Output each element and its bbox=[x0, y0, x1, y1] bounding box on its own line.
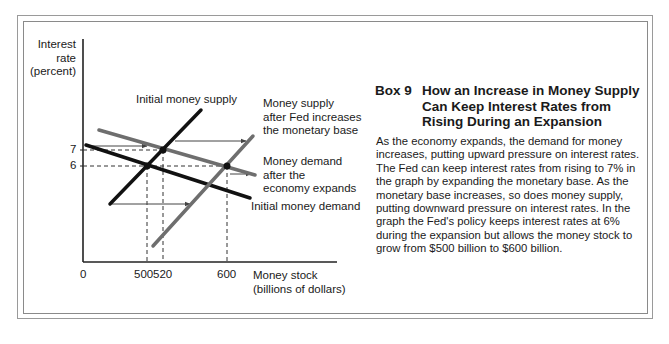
box-title: How an Increase in Money Supply Can Keep… bbox=[422, 83, 652, 130]
box-number: Box 9 bbox=[375, 83, 412, 99]
label-new-supply: Money supply after Fed increases the mon… bbox=[263, 97, 361, 138]
label-initial-demand: Initial money demand bbox=[251, 200, 360, 214]
equilibrium-dot-final bbox=[224, 163, 231, 170]
new-money-supply-curve bbox=[153, 136, 253, 246]
box-body-text: As the economy expands, the demand for m… bbox=[376, 135, 646, 256]
equilibrium-dot-initial bbox=[144, 163, 151, 170]
initial-money-demand-curve bbox=[86, 145, 250, 198]
x-tick-520: 520 bbox=[153, 268, 172, 282]
x-tick-500: 500 bbox=[134, 268, 153, 282]
y-tick-7: 7 bbox=[70, 143, 76, 157]
x-tick-0: 0 bbox=[80, 268, 86, 282]
equilibrium-dot-demand-shift bbox=[160, 147, 167, 154]
y-tick-6: 6 bbox=[70, 159, 76, 173]
y-axis-label: Interest rate (percent) bbox=[20, 38, 76, 79]
x-tick-600: 600 bbox=[217, 268, 236, 282]
label-new-demand: Money demand after the economy expands bbox=[263, 155, 356, 196]
label-initial-supply: Initial money supply bbox=[136, 93, 237, 107]
x-axis-label: Money stock (billions of dollars) bbox=[253, 269, 346, 296]
